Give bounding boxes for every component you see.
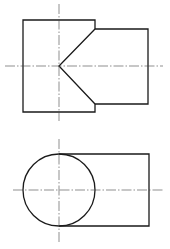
front-view [5,4,163,121]
technical-drawing [0,0,170,249]
top-view [13,139,163,244]
conical-transition-lines [59,29,95,104]
